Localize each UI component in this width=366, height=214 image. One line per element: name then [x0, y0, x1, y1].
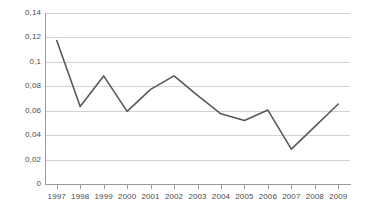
- x-tick: [151, 185, 152, 189]
- y-tick-label: 0,14: [1, 9, 41, 17]
- y-tick-label: 0,08: [1, 82, 41, 90]
- y-tick-label: 0,12: [1, 33, 41, 41]
- x-tick: [244, 185, 245, 189]
- series-polyline: [57, 40, 339, 149]
- x-tick: [198, 185, 199, 189]
- y-axis-line: [45, 13, 46, 185]
- x-tick: [127, 185, 128, 189]
- x-axis-labels: 1997199819992000200120022003200420052006…: [45, 192, 351, 208]
- x-tick: [57, 185, 58, 189]
- x-tick: [315, 185, 316, 189]
- x-tick: [291, 185, 292, 189]
- y-tick-label: 0: [1, 180, 41, 188]
- y-tick-label: 0,04: [1, 131, 41, 139]
- plot-area: [45, 13, 350, 184]
- x-tick: [338, 185, 339, 189]
- y-tick-label: 0,02: [1, 156, 41, 164]
- x-tick: [174, 185, 175, 189]
- x-tick: [104, 185, 105, 189]
- x-axis-ticks: [45, 185, 351, 190]
- y-tick-label: 0,1: [1, 58, 41, 66]
- x-tick: [268, 185, 269, 189]
- line-chart: 00,020,040,060,080,10,120,14 19971998199…: [0, 0, 366, 214]
- x-tick: [221, 185, 222, 189]
- data-series-line: [45, 13, 350, 184]
- x-tick-label: 2009: [318, 192, 358, 202]
- x-tick: [80, 185, 81, 189]
- y-tick-label: 0,06: [1, 107, 41, 115]
- y-axis-labels: 00,020,040,060,080,10,120,14: [0, 13, 41, 184]
